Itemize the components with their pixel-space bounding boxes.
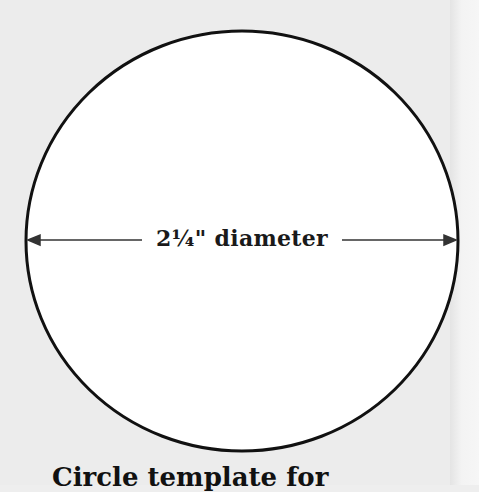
diameter-label-text: 2¼" diameter [150,225,334,251]
caption: Circle template for [52,462,328,492]
diameter-label: 2¼" diameter [0,225,479,251]
